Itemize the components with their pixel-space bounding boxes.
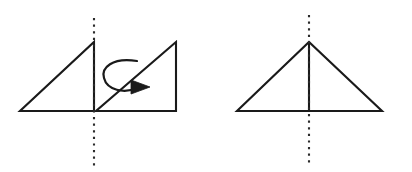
figure-background — [0, 0, 412, 172]
rotation-figure — [0, 0, 412, 172]
figure-canvas — [0, 0, 412, 172]
